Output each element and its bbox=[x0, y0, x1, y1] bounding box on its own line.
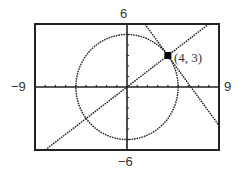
graph-window bbox=[0, 0, 240, 173]
xmax-label: 9 bbox=[224, 80, 231, 93]
ymin-label: −6 bbox=[118, 155, 133, 168]
tangent-line bbox=[145, 24, 219, 125]
ymax-label: 6 bbox=[120, 7, 127, 20]
point-label: (4, 3) bbox=[174, 51, 202, 64]
xmin-label: −9 bbox=[11, 80, 26, 93]
intersection-point-marker bbox=[164, 52, 171, 59]
